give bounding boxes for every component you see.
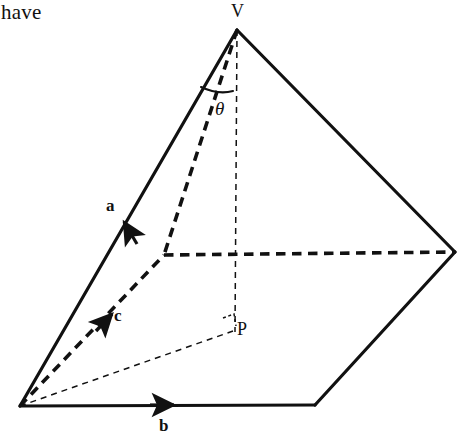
theta-angle-arc (201, 87, 233, 92)
label-angle-theta: θ (215, 99, 224, 118)
figure-root: have V P a b c θ (0, 0, 462, 434)
label-point-p: P (237, 320, 247, 338)
edge-apex-to-point-p-altitude (235, 30, 237, 332)
label-vector-b: b (159, 417, 168, 434)
right-angle-at-p-marker (223, 314, 236, 326)
label-vector-a: a (106, 197, 115, 214)
label-vertex-v: V (231, 2, 244, 20)
edge-back-vertex-to-right-vertex (164, 252, 455, 255)
pyramid-diagram-svg (0, 0, 462, 434)
edge-apex-to-back-vertex (164, 30, 237, 255)
edge-right-vertex-to-front-right (315, 252, 455, 405)
label-vector-c: c (114, 307, 122, 324)
vector-a-arrowhead (124, 222, 137, 244)
visible-edges-group (20, 30, 455, 406)
vector-arrowheads-group (96, 222, 174, 405)
edge-front-left-to-back-vertex (20, 255, 164, 406)
edge-apex-to-front-left (20, 30, 237, 406)
edge-front-left-to-point-p (20, 331, 233, 406)
edge-apex-to-right-vertex (237, 30, 455, 252)
body-text-fragment: have (1, 2, 41, 23)
hidden-edges-group (20, 30, 455, 406)
